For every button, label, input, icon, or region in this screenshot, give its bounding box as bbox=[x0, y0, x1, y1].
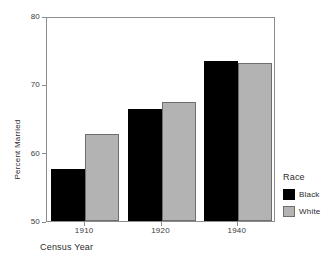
legend: Race Black White bbox=[283, 172, 332, 223]
bar-white-1920 bbox=[162, 102, 196, 221]
bar-chart-figure: Percent Married 50607080191019201940 Cen… bbox=[0, 0, 332, 263]
legend-title: Race bbox=[283, 172, 332, 182]
y-axis-tick-mark bbox=[42, 17, 46, 18]
x-axis-tick-label: 1910 bbox=[54, 226, 114, 235]
x-axis-tick-label: 1940 bbox=[207, 226, 267, 235]
y-axis-tick-label: 70 bbox=[0, 80, 46, 90]
bar-black-1940 bbox=[204, 61, 238, 221]
y-axis-tick-mark bbox=[42, 153, 46, 154]
x-axis-tick-label: 1920 bbox=[131, 226, 191, 235]
bar-black-1920 bbox=[128, 109, 162, 221]
y-axis-tick-mark bbox=[42, 222, 46, 223]
x-axis-title: Census Year bbox=[40, 242, 93, 252]
bar-white-1940 bbox=[238, 63, 272, 221]
legend-item-white[interactable]: White bbox=[283, 206, 332, 217]
bar-white-1910 bbox=[85, 134, 119, 221]
y-axis-tick-label: 80 bbox=[0, 12, 46, 22]
y-axis-tick-mark bbox=[42, 85, 46, 86]
legend-item-black[interactable]: Black bbox=[283, 189, 332, 200]
bar-black-1910 bbox=[51, 169, 85, 221]
legend-swatch-white-icon bbox=[283, 206, 295, 217]
y-axis-tick-label: 50 bbox=[0, 217, 46, 227]
plot-area bbox=[46, 17, 275, 222]
legend-label-white: White bbox=[299, 207, 320, 216]
legend-label-black: Black bbox=[299, 190, 320, 199]
legend-swatch-black-icon bbox=[283, 189, 295, 200]
y-axis-tick-label: 60 bbox=[0, 149, 46, 159]
